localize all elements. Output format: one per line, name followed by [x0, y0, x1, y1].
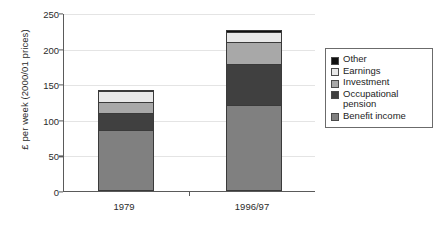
y-axis-tick-label: 200	[19, 44, 59, 55]
x-axis-tick-label: 1996/97	[235, 201, 269, 212]
bar-segment-benefit-income	[99, 131, 153, 190]
stacked-bar-chart: £ per week (2000/01 prices) 050100150200…	[0, 0, 438, 229]
legend-swatch-icon	[331, 57, 339, 65]
y-axis-tick-label: 150	[19, 80, 59, 91]
legend-swatch-icon	[331, 113, 339, 121]
bar-1996-97	[226, 30, 282, 191]
bar-segment-earnings	[99, 92, 153, 103]
legend-item: Occupational pension	[331, 89, 428, 110]
legend-item: Other	[331, 54, 428, 65]
bar-segment-occupational-pension	[99, 114, 153, 131]
legend: OtherEarningsInvestmentOccupational pens…	[325, 48, 433, 128]
y-axis-tick-label: 50	[19, 151, 59, 162]
legend-swatch-icon	[331, 68, 339, 76]
plot-area	[63, 14, 315, 192]
x-axis-tick-label: 1979	[113, 201, 134, 212]
legend-item: Investment	[331, 77, 428, 88]
bar-segment-earnings	[227, 33, 281, 44]
legend-item: Earnings	[331, 66, 428, 77]
legend-label: Benefit income	[343, 111, 406, 122]
bar-segment-investment	[227, 43, 281, 64]
legend-label: Occupational pension	[343, 89, 398, 110]
legend-label: Investment	[343, 77, 389, 88]
x-axis-center-tick	[189, 192, 190, 196]
legend-label: Earnings	[343, 66, 381, 77]
y-axis-tick-label: 250	[19, 9, 59, 20]
gridline	[64, 14, 315, 15]
legend-swatch-icon	[331, 91, 339, 99]
bar-1979	[98, 90, 154, 191]
bar-segment-occupational-pension	[227, 65, 281, 106]
bar-segment-investment	[99, 103, 153, 114]
legend-label: Other	[343, 54, 367, 65]
y-axis-tick-label: 100	[19, 115, 59, 126]
y-axis-tick-labels: 050100150200250	[17, 14, 59, 192]
bar-segment-benefit-income	[227, 106, 281, 190]
legend-swatch-icon	[331, 80, 339, 88]
y-axis-tick-label: 0	[19, 187, 59, 198]
legend-item: Benefit income	[331, 111, 428, 122]
